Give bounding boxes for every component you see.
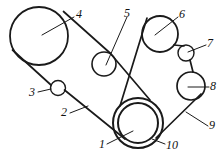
diagram-canvas <box>0 0 224 160</box>
callout-3-leader-line <box>38 89 51 92</box>
callout-5-leader-line <box>106 17 127 65</box>
pulley-large-upper-left-pulley <box>10 7 68 65</box>
callout-4-text: 4 <box>76 8 82 20</box>
pulley-small-idler-upper-right <box>178 45 194 61</box>
pulley-mid-tensioner-pulley <box>92 52 116 76</box>
belt-seg-pulley4-to-pulley5-upper <box>64 12 111 54</box>
pulley-layer <box>10 7 205 148</box>
pulley-right-pulley <box>177 72 205 100</box>
belt-seg-pulley7-to-pulley8 <box>190 60 193 72</box>
callout-4-leader-line <box>42 17 74 35</box>
pulley-small-idler-lower-left <box>51 81 66 96</box>
pulley-inner-drive-pulley <box>118 103 158 143</box>
callout-6-leader-line <box>155 17 178 35</box>
callout-2-leader-line <box>70 106 88 113</box>
leader-line-layer <box>38 17 209 144</box>
callout-5-text: 5 <box>124 7 130 19</box>
callout-7-text: 7 <box>207 37 213 49</box>
callout-1-text: 1 <box>99 138 105 150</box>
callout-9-text: 9 <box>209 119 215 131</box>
belt-seg-idler3-to-drive-lower <box>65 90 126 139</box>
callout-3-text: 3 <box>29 86 35 98</box>
callout-2-text: 2 <box>61 106 67 118</box>
callout-6-text: 6 <box>179 8 185 20</box>
callout-9-leader-line <box>186 112 208 126</box>
callout-10-text: 10 <box>166 139 178 151</box>
callout-8-text: 8 <box>210 80 216 92</box>
pulley-system-diagram: 45678910123 <box>0 0 224 160</box>
